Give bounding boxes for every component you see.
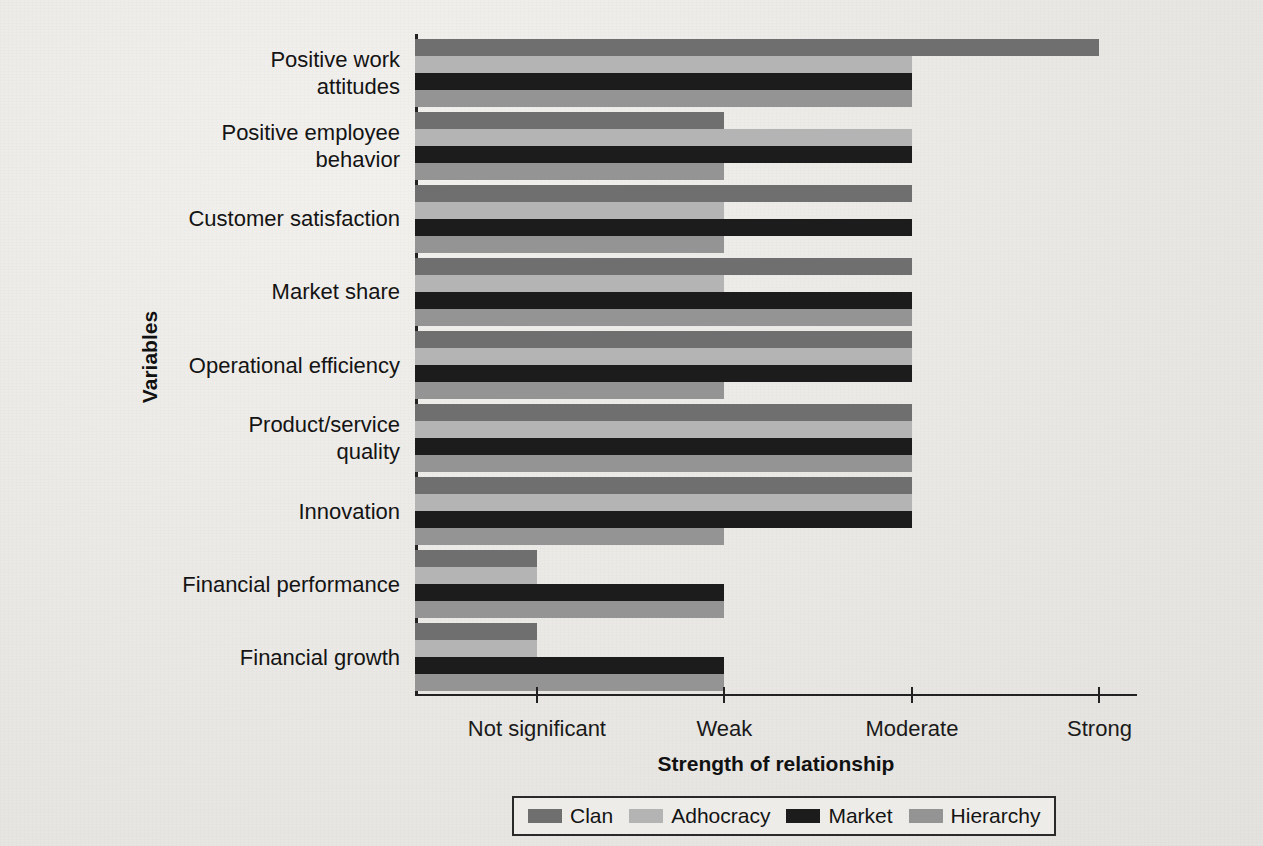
category-label-line: attitudes [70,73,400,100]
bar-group [415,109,1137,182]
bar-group [415,36,1137,109]
bar [415,163,724,180]
y-axis-category-label: Financial performance [70,571,400,598]
legend-item: Market [786,804,892,828]
bar [415,90,912,107]
x-axis-tick-label: Strong [1067,716,1132,742]
bar [415,202,724,219]
y-axis-category-label: Product/servicequality [70,411,400,465]
bar [415,146,912,163]
category-label-line: Positive employee [70,119,400,146]
legend-swatch-icon [629,809,663,823]
bar-group [415,475,1137,548]
legend-item: Clan [528,804,613,828]
bar [415,528,724,545]
bar [415,39,1099,56]
chart-page: Variables Positive workattitudesPositive… [0,0,1263,846]
legend-label: Clan [570,804,613,828]
y-axis-category-label: Positive workattitudes [70,46,400,100]
bar [415,567,537,584]
bar-group [415,328,1137,401]
legend-swatch-icon [786,809,820,823]
y-axis-category-label: Innovation [70,498,400,525]
bar [415,382,724,399]
bar-group [415,548,1137,621]
legend-item: Hierarchy [909,804,1041,828]
category-label-line: Customer satisfaction [70,205,400,232]
bar [415,657,724,674]
category-label-line: Positive work [70,46,400,73]
y-axis-category-label: Customer satisfaction [70,205,400,232]
category-label-line: Financial performance [70,571,400,598]
category-label-line: Financial growth [70,644,400,671]
legend-item: Adhocracy [629,804,770,828]
bar [415,129,912,146]
bar [415,421,912,438]
x-axis-tick [723,687,725,703]
x-axis-line [415,694,1137,696]
bar [415,292,912,309]
y-axis-category-labels: Positive workattitudesPositive employeeb… [60,0,400,700]
category-label-line: Market share [70,278,400,305]
bar [415,219,912,236]
bar [415,584,724,601]
category-label-line: Innovation [70,498,400,525]
legend-label: Market [828,804,892,828]
x-axis-tick-label: Weak [697,716,753,742]
bar-group [415,621,1137,694]
bar [415,365,912,382]
bar-group [415,255,1137,328]
bar [415,494,912,511]
y-axis-category-label: Market share [70,278,400,305]
chart-legend: ClanAdhocracyMarketHierarchy [512,796,1056,836]
bar [415,258,912,275]
bar [415,185,912,202]
x-axis-tick-label: Not significant [468,716,606,742]
bar [415,309,912,326]
bar [415,56,912,73]
x-axis-tick [1098,687,1100,703]
bar [415,455,912,472]
x-axis-tick-label: Moderate [865,716,958,742]
x-axis-tick [536,687,538,703]
legend-swatch-icon [909,809,943,823]
x-axis-title: Strength of relationship [415,752,1137,776]
y-axis-category-label: Operational efficiency [70,352,400,379]
legend-swatch-icon [528,809,562,823]
bar [415,601,724,618]
legend-label: Hierarchy [951,804,1041,828]
legend-label: Adhocracy [671,804,770,828]
bar [415,275,724,292]
category-label-line: Product/service [70,411,400,438]
bar [415,331,912,348]
bar [415,674,724,691]
bar [415,477,912,494]
category-label-line: quality [70,438,400,465]
bar-group [415,402,1137,475]
bar [415,348,912,365]
category-label-line: behavior [70,146,400,173]
bar [415,438,912,455]
bar [415,623,537,640]
y-axis-category-label: Positive employeebehavior [70,119,400,173]
y-axis-category-label: Financial growth [70,644,400,671]
category-label-line: Operational efficiency [70,352,400,379]
bar [415,640,537,657]
bar [415,404,912,421]
bar [415,511,912,528]
plot-area [415,36,1137,694]
bar [415,112,724,129]
x-axis-tick [911,687,913,703]
bar [415,550,537,567]
bar [415,236,724,253]
bar-group [415,182,1137,255]
bar [415,73,912,90]
